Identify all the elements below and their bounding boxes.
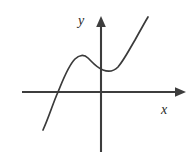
graph-figure: y x xyxy=(0,0,193,161)
y-axis-label: y xyxy=(78,14,84,28)
cubic-curve-path xyxy=(43,17,148,130)
x-axis-label: x xyxy=(161,103,167,117)
graph-canvas xyxy=(0,0,193,161)
y-axis-arrowhead xyxy=(96,16,106,27)
x-axis-arrowhead xyxy=(175,87,186,97)
